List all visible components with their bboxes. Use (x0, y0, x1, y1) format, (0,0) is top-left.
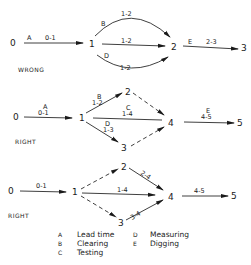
activity-label-2-4: 2-4 (139, 169, 152, 181)
arrow-0-1 (20, 191, 66, 192)
legend-key-d: D (133, 231, 138, 238)
legend-key-c: C (58, 249, 62, 256)
legend-text-digging: Digging (150, 239, 179, 248)
legend-key-e: E (133, 240, 137, 247)
activity-label-1-4: 1-4 (117, 186, 128, 194)
activity-label-1-2-top: 1-2 (121, 10, 132, 18)
activity-letter-b: B (101, 20, 105, 28)
legend-key-a: A (58, 231, 63, 238)
node-0: 0 (13, 112, 19, 122)
activity-letter-e: E (188, 38, 192, 46)
diagram-wrong: 0 A 0-1 1 B 1-2 1-2 D 1-2 2 E 2-3 3 WRON… (10, 10, 247, 73)
verdict-label-right: RIGHT (8, 212, 29, 219)
arrow-b-1-2-top (95, 18, 170, 37)
node-5: 5 (237, 118, 243, 128)
activity-label-2-3: 2-3 (206, 38, 217, 46)
dummy-arrow-1-3 (81, 196, 116, 217)
verdict-label-right: RIGHT (15, 138, 36, 145)
verdict-label-wrong: WRONG (18, 66, 44, 73)
node-4: 4 (168, 118, 174, 128)
arrow-1-2-middle (102, 44, 165, 46)
node-2: 2 (125, 87, 131, 97)
arrow-e-2-3 (183, 46, 238, 49)
legend-text-testing: Testing (76, 248, 104, 257)
node-0: 0 (10, 38, 16, 48)
activity-label-4-5: 4-5 (201, 113, 212, 121)
activity-label-1-2-bottom: 1-2 (120, 64, 131, 72)
arrow-c-1-4 (93, 118, 162, 120)
dummy-arrow-2-4 (133, 93, 164, 115)
activity-letter-d: D (104, 52, 109, 60)
legend-text-measuring: Measuring (150, 230, 189, 239)
node-2: 2 (121, 162, 127, 172)
activity-label-4-5: 4-5 (194, 187, 205, 195)
node-0: 0 (8, 186, 14, 196)
diagram-right-1: 0 A 0-1 1 B 1-2 2 C 1-4 D 1-3 3 4 E 4-5 … (13, 87, 243, 153)
node-3: 3 (241, 43, 247, 53)
legend: A Lead time B Clearing C Testing D Measu… (58, 230, 189, 257)
node-4: 4 (168, 192, 174, 202)
node-3: 3 (121, 143, 127, 153)
activity-label-1-2: 1-2 (92, 99, 103, 107)
node-1: 1 (79, 113, 85, 123)
dummy-arrow-3-4 (131, 127, 164, 146)
node-1: 1 (72, 187, 78, 197)
legend-text-lead-time: Lead time (77, 230, 115, 239)
activity-letter-a: A (27, 34, 32, 42)
node-5: 5 (231, 191, 237, 201)
diagram-right-2: 0 0-1 1 2 1-4 3 2-4 3-4 4 4-5 5 RIGHT (8, 162, 237, 228)
activity-label-1-4: 1-4 (122, 110, 133, 118)
activity-label-0-1: 0-1 (36, 182, 47, 190)
legend-key-b: B (58, 240, 62, 247)
activity-label-1-2-middle: 1-2 (121, 37, 132, 45)
legend-text-clearing: Clearing (77, 239, 108, 248)
activity-label-3-4: 3-4 (129, 209, 142, 221)
node-3: 3 (118, 218, 124, 228)
activity-network-diagrams: 0 A 0-1 1 B 1-2 1-2 D 1-2 2 E 2-3 3 WRON… (0, 0, 251, 265)
activity-label-0-1: 0-1 (38, 109, 49, 117)
activity-label-1-3: 1-3 (103, 126, 114, 134)
dummy-arrow-1-2 (81, 169, 118, 189)
arrow-e-4-5 (184, 122, 234, 123)
node-1: 1 (89, 39, 95, 49)
activity-label-0-1: 0-1 (45, 34, 56, 42)
arrow-a-0-1 (24, 117, 72, 118)
node-2: 2 (171, 42, 177, 52)
